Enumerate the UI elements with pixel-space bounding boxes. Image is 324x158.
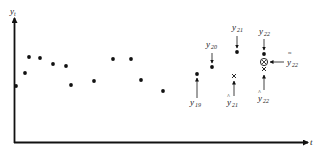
data-point [111,57,115,61]
data-point [129,57,133,61]
cross-marker-yhat22 [262,67,266,71]
data-point [69,83,73,87]
data-point [235,50,239,54]
data-point [64,64,68,68]
data-point [38,56,42,60]
data-point [210,65,214,69]
data-point [195,72,199,76]
circled-cross-marker-ytilde22 [260,58,267,65]
cross-marker-yhat21 [232,74,236,78]
data-point [51,62,55,66]
label-y21: y21 [231,22,243,33]
tilde-ytilde22: ≈ [288,50,292,56]
data-point [161,89,165,93]
data-point [14,84,18,88]
label-y19: y19 [189,97,201,108]
data-points [14,50,266,93]
label-y22: y22 [258,26,270,37]
data-point [23,71,27,75]
label-ytilde22: y22 [286,57,298,68]
data-point [92,79,96,83]
y-axis-label: yt [9,6,16,17]
data-point [139,78,143,82]
data-point [262,52,266,56]
time-series-diagram: yt t y19 y20 y21 y22 y21 ^ y22 ≈ [0,0,324,158]
x-axis-label: t [310,137,313,147]
label-y20: y20 [205,39,217,50]
data-point [27,55,31,59]
